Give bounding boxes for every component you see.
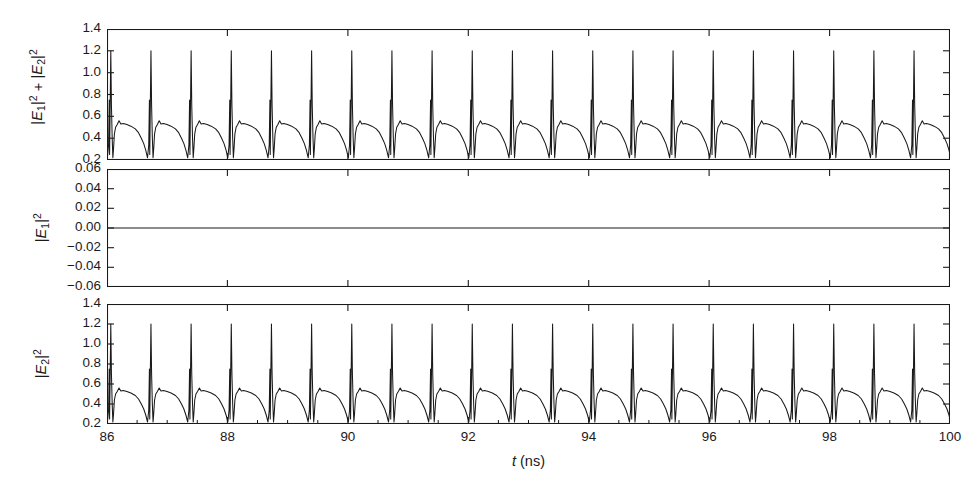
plot-area-panel-sum	[107, 29, 950, 160]
y-tick-label: 1.0	[82, 64, 101, 79]
y-tick-label: 0.4	[82, 129, 101, 144]
y-tick-label: 0.6	[82, 375, 101, 390]
y-tick-label: 0.02	[75, 199, 101, 214]
panel-e1	[107, 169, 950, 287]
y-axis-label-e2: |E2|2	[32, 334, 51, 394]
ylabel-term: |E2|2	[30, 49, 46, 78]
x-tick-label: 90	[323, 429, 373, 444]
y-tick-label: 1.4	[82, 295, 101, 310]
x-tick-label: 96	[684, 429, 734, 444]
axes-frame	[108, 305, 950, 424]
plot-area-panel-e2	[107, 304, 950, 424]
ylabel-operator: +	[30, 78, 46, 95]
y-tick-label: 1.4	[82, 20, 101, 35]
panel-sum	[107, 29, 950, 160]
ylabel-term: |E1|2	[34, 213, 50, 242]
y-axis-label-e1: |E1|2	[32, 198, 51, 258]
x-axis-label: t (ns)	[499, 453, 559, 469]
figure-root: |E1|2 + |E2|2 |E1|2 |E2|2 86889092949698…	[0, 0, 978, 489]
y-tick-label: 0.6	[82, 107, 101, 122]
y-tick-label: 1.2	[82, 42, 101, 57]
plot-area-panel-e1	[107, 169, 950, 287]
x-tick-label: 88	[202, 429, 252, 444]
data-line-panel-e2	[107, 324, 950, 422]
y-tick-label: 1.0	[82, 335, 101, 350]
y-tick-label: 0.4	[82, 395, 101, 410]
x-tick-label: 100	[925, 429, 975, 444]
x-tick-label: 94	[564, 429, 614, 444]
ylabel-term: |E1|2	[30, 95, 46, 124]
x-tick-label: 98	[805, 429, 855, 444]
y-tick-label: 0.00	[75, 219, 101, 234]
y-tick-label: 0.8	[82, 355, 101, 370]
y-tick-label: −0.04	[67, 258, 101, 273]
y-tick-label: −0.06	[67, 278, 101, 293]
xlabel-unit: (ns)	[520, 453, 545, 469]
y-tick-label: 1.2	[82, 315, 101, 330]
tick-marks	[107, 29, 950, 160]
x-tick-label: 86	[82, 429, 132, 444]
y-tick-label: 0.06	[75, 160, 101, 175]
xlabel-variable: t	[512, 453, 516, 469]
axes-frame	[108, 30, 950, 160]
y-tick-label: 0.04	[75, 180, 101, 195]
tick-marks	[107, 304, 950, 424]
y-tick-label: −0.02	[67, 239, 101, 254]
panel-e2	[107, 304, 950, 424]
x-tick-label: 92	[443, 429, 493, 444]
y-tick-label: 0.2	[82, 415, 101, 430]
y-axis-label-sum: |E1|2 + |E2|2	[28, 64, 47, 124]
data-line-panel-sum	[107, 51, 950, 158]
y-tick-label: 0.8	[82, 86, 101, 101]
ylabel-term: |E2|2	[34, 349, 50, 378]
